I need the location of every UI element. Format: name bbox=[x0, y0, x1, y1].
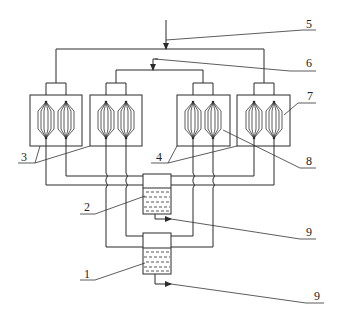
label-8: 8 bbox=[306, 155, 312, 167]
unit-manifolds bbox=[46, 83, 274, 95]
main-feed-line bbox=[56, 20, 264, 83]
label-4: 4 bbox=[156, 151, 162, 163]
label-2: 2 bbox=[84, 201, 90, 213]
label-1: 1 bbox=[84, 268, 90, 280]
heat-exchanger-unit-2 bbox=[90, 95, 142, 146]
collection-tank-1 bbox=[143, 233, 171, 284]
label-3: 3 bbox=[21, 151, 27, 163]
diagram-canvas: 5 6 7 8 3 4 2 1 9 9 bbox=[0, 0, 342, 320]
label-9-lower: 9 bbox=[314, 290, 320, 302]
label-6: 6 bbox=[306, 57, 312, 69]
label-7: 7 bbox=[307, 90, 313, 102]
label-9-upper: 9 bbox=[306, 226, 312, 238]
secondary-feed-line bbox=[116, 59, 203, 83]
heat-exchanger-unit-3 bbox=[177, 95, 230, 146]
heat-exchanger-unit-1 bbox=[30, 95, 82, 146]
schematic-svg bbox=[0, 0, 342, 320]
collection-tank-2 bbox=[143, 174, 171, 219]
label-5: 5 bbox=[306, 18, 312, 30]
heat-exchanger-unit-4 bbox=[237, 95, 290, 146]
